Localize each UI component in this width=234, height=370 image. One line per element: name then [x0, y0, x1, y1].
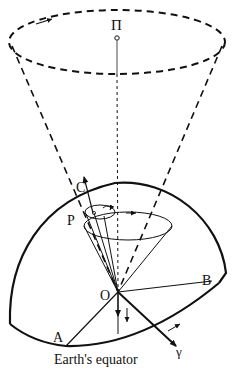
nutation-circle — [84, 212, 172, 240]
label-o: O — [100, 288, 110, 303]
label-gamma: γ — [175, 344, 182, 359]
cone-left-side — [12, 46, 118, 292]
small-rotation-arrow — [103, 206, 111, 210]
precession-diagram: Π C P O A B γ Earth's equator — [0, 0, 234, 370]
equator-curve — [10, 283, 219, 346]
line-oa — [66, 292, 118, 346]
caption-equator: Earth's equator — [54, 352, 138, 367]
axis-line-1 — [86, 214, 118, 292]
cone-right-side — [118, 46, 222, 292]
gamma-motion-arrow — [168, 324, 180, 331]
precession-direction-arrow — [36, 19, 52, 24]
label-b: B — [202, 273, 211, 288]
label-c: C — [76, 180, 85, 195]
pole-point — [115, 36, 119, 40]
label-pole: Π — [111, 17, 122, 33]
nutation-cone-right — [118, 226, 172, 292]
label-a: A — [53, 330, 64, 345]
line-ob — [118, 281, 212, 292]
label-p: P — [67, 213, 75, 228]
